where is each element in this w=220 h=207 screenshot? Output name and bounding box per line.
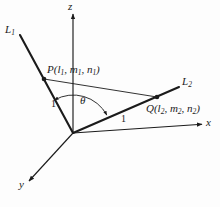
point-Q-label: Q(l2, m2, n2): [146, 103, 200, 115]
length-op-label: 1: [51, 99, 56, 109]
point-Q-label-head: Q(l: [146, 102, 161, 114]
segment-PQ: [44, 79, 157, 97]
line-L1-label: L1: [5, 24, 15, 36]
line-L2-label: L2: [182, 76, 192, 88]
point-P-dot: [42, 77, 47, 82]
geometry-figure: z x y L1 L2 P(l1, m1, n1) Q(l2, m2, n2) …: [0, 0, 220, 207]
point-P-label-mid2: , n: [81, 63, 92, 75]
x-axis-label: x: [206, 117, 211, 128]
angle-theta-label: θ: [80, 95, 85, 106]
point-Q-label-mid1: , m: [164, 102, 177, 114]
line-L1: [20, 35, 73, 133]
point-Q-dot: [155, 95, 160, 100]
point-P-label-mid1: , m: [64, 63, 77, 75]
line-L1-label-sub: 1: [11, 28, 15, 37]
point-P-label-head: P(l: [47, 63, 60, 75]
point-P-label-end: ): [96, 63, 100, 75]
y-axis-label: y: [19, 179, 24, 190]
length-oq-label: 1: [121, 114, 126, 124]
point-P-label: P(l1, m1, n1): [47, 64, 100, 76]
point-Q-label-mid2: , n: [182, 102, 193, 114]
z-axis-label: z: [68, 1, 72, 12]
point-Q-label-end: ): [196, 102, 200, 114]
y-axis: [29, 133, 73, 181]
line-L2-label-sub: 2: [188, 80, 192, 89]
